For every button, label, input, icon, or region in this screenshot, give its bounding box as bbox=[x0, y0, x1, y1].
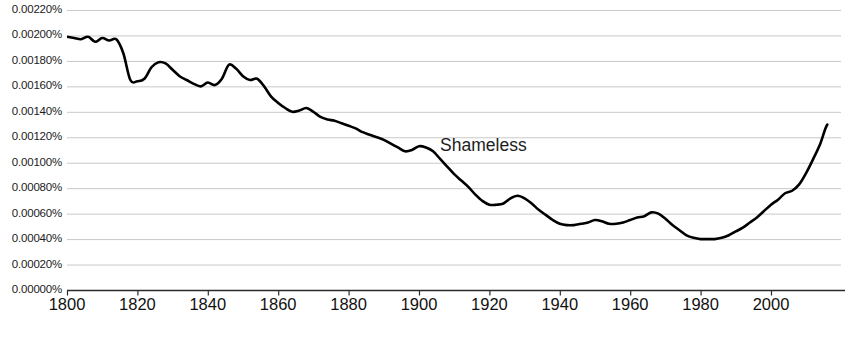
x-axis-tick-labels: 1800182018401860188019001920194019601980… bbox=[0, 0, 845, 341]
x-axis-tick-label: 1960 bbox=[612, 296, 649, 313]
x-axis-tick-label: 1840 bbox=[189, 296, 226, 313]
x-axis-tick-label: 1940 bbox=[541, 296, 578, 313]
x-axis-tick-label: 1880 bbox=[330, 296, 367, 313]
series-label-shameless: Shameless bbox=[440, 137, 527, 155]
x-axis-tick-label: 1860 bbox=[260, 296, 297, 313]
x-axis-tick-label: 1900 bbox=[401, 296, 438, 313]
ngram-chart: 0.00220%0.00200%0.00180%0.00160%0.00140%… bbox=[0, 0, 845, 341]
x-axis-tick-label: 2000 bbox=[753, 296, 790, 313]
x-axis-tick-label: 1980 bbox=[682, 296, 719, 313]
x-axis-tick-label: 1800 bbox=[49, 296, 86, 313]
x-axis-tick-label: 1920 bbox=[471, 296, 508, 313]
x-axis-tick-label: 1820 bbox=[119, 296, 156, 313]
